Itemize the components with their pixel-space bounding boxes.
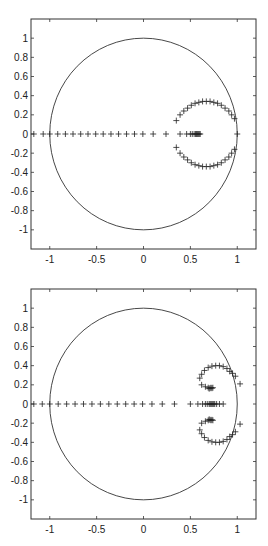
plus-marker [216,439,222,445]
plus-marker [149,401,155,407]
y-tick-label: -0.6 [11,186,29,197]
x-tick-label: -0.5 [88,524,106,535]
plus-marker [72,401,78,407]
series-real-axis-roots [31,401,226,407]
x-tick-label: 0.5 [183,524,197,535]
plus-marker [55,401,61,407]
plus-marker [64,401,70,407]
series-lower-arc [173,144,237,169]
plus-marker [100,131,106,137]
series-real-axis-roots [31,131,240,137]
plus-marker [108,131,114,137]
plus-marker [159,401,165,407]
plus-marker [201,435,207,441]
x-tick-label: 0.5 [183,254,197,265]
plus-marker [85,131,91,137]
y-tick-label: 0.6 [14,71,28,82]
plus-marker [237,381,243,387]
plus-marker [220,401,226,407]
plus-marker [78,131,84,137]
plus-marker [177,150,183,156]
y-tick-label: -0.8 [11,205,29,216]
plus-marker [81,401,87,407]
plus-marker [47,131,53,137]
plus-marker [132,131,138,137]
y-tick-label: 0.4 [14,90,28,101]
root-locus-plot-top: -1-0.500.5110.80.60.40.20-0.2-0.4-0.6-0.… [0,0,268,273]
plus-marker [207,98,213,104]
y-tick-label: 0.8 [14,52,28,63]
plus-marker [237,421,243,427]
plus-marker [226,154,232,160]
plus-marker [185,157,191,163]
plus-marker [181,108,187,114]
plus-marker [232,429,238,435]
plus-marker [234,131,240,137]
y-tick-label: 0.2 [14,379,28,390]
plus-marker [116,131,122,137]
plus-marker [205,365,211,371]
plus-marker [209,363,215,369]
plus-marker [177,112,183,118]
x-tick-label: -1 [45,254,54,265]
y-tick-label: -1 [19,224,28,235]
plus-marker [124,131,130,137]
y-tick-label: 0.8 [14,322,28,333]
plus-marker [140,401,146,407]
plus-marker [181,154,187,160]
x-tick-label: 0 [141,254,147,265]
plus-marker [150,131,156,137]
plus-marker [173,144,179,150]
plus-marker [211,99,217,105]
y-tick-label: -0.4 [11,167,29,178]
plus-marker [93,131,99,137]
y-tick-label: -0.6 [11,456,29,467]
plus-marker [207,164,213,170]
x-tick-label: 0 [141,524,147,535]
y-tick-label: -0.4 [11,437,29,448]
y-tick-label: -0.2 [11,148,29,159]
y-tick-label: 0 [22,399,28,410]
plus-marker [177,131,183,137]
plus-marker [187,401,193,407]
root-locus-plot-bottom: -1-0.500.5110.80.60.40.20-0.2-0.4-0.6-0.… [0,270,268,543]
plus-marker [211,163,217,169]
y-tick-label: -1 [19,494,28,505]
series-upper-arc [173,98,237,123]
axes-1: -1-0.500.5110.80.60.40.20-0.2-0.4-0.6-0.… [11,289,256,535]
plus-marker [232,373,238,379]
y-tick-label: 0.4 [14,360,28,371]
plus-marker [222,157,228,163]
plus-marker [114,401,120,407]
plus-marker [97,401,103,407]
plus-marker [209,439,215,445]
y-tick-label: 0.2 [14,109,28,120]
plus-marker [62,131,68,137]
plus-marker [229,112,235,118]
plus-marker [171,401,177,407]
y-tick-label: 1 [22,303,28,314]
plus-marker [229,150,235,156]
plus-marker [196,163,202,169]
plus-marker [216,363,222,369]
y-tick-label: -0.2 [11,418,29,429]
plus-marker [205,437,211,443]
plus-marker [106,401,112,407]
plot-canvas-bottom: -1-0.500.5110.80.60.40.20-0.2-0.4-0.6-0.… [0,270,268,543]
y-tick-label: -0.8 [11,475,29,486]
x-tick-label: 1 [234,254,240,265]
plus-marker [123,401,129,407]
plus-marker [31,131,37,137]
plus-marker [89,401,95,407]
plus-marker [226,108,232,114]
plus-marker [140,131,146,137]
plus-marker [31,401,37,407]
plus-marker [47,401,53,407]
y-tick-label: 1 [22,33,28,44]
plus-marker [185,105,191,111]
plus-marker [40,131,46,137]
plus-marker [222,105,228,111]
y-tick-label: 0 [22,129,28,140]
plus-marker [39,401,45,407]
x-tick-label: -0.5 [88,254,106,265]
